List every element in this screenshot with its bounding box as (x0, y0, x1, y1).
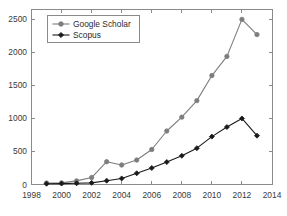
data-point-marker (255, 32, 259, 36)
chart-figure: 05001000150020002500 1998200020022004200… (0, 0, 287, 216)
x-tick-label: 1998 (22, 190, 41, 200)
x-tick-label: 2012 (233, 190, 252, 200)
y-tick-label: 2500 (8, 14, 27, 24)
x-tick-label: 2014 (263, 190, 282, 200)
data-point-marker (59, 22, 64, 27)
x-tick-label: 2000 (52, 190, 71, 200)
x-tick-label: 2004 (112, 190, 131, 200)
y-tick-label: 0 (22, 180, 27, 190)
legend-label: Google Scholar (73, 19, 131, 29)
chart-legend: Google ScholarScopus (48, 16, 140, 43)
data-point-marker (225, 54, 229, 58)
data-point-marker (165, 129, 169, 133)
data-point-marker (210, 73, 214, 77)
data-point-marker (104, 160, 108, 164)
data-point-marker (240, 17, 244, 21)
x-tick-label: 2008 (172, 190, 191, 200)
y-tick-label: 1000 (8, 113, 27, 123)
data-point-marker (135, 158, 139, 162)
data-point-marker (89, 175, 93, 179)
y-tick-label: 2000 (8, 47, 27, 57)
data-point-marker (195, 98, 199, 102)
data-point-marker (150, 147, 154, 151)
x-axis-tick-labels: 199820002002200420062008201020122014 (22, 190, 281, 200)
legend-label: Scopus (73, 30, 101, 40)
legend-marker-sample (59, 22, 64, 27)
y-tick-label: 500 (13, 146, 27, 156)
data-point-marker (119, 163, 123, 167)
x-tick-label: 2006 (142, 190, 161, 200)
data-point-marker (180, 115, 184, 119)
line-chart: 05001000150020002500 1998200020022004200… (0, 0, 287, 216)
chart-background (0, 0, 287, 216)
y-tick-label: 1500 (8, 80, 27, 90)
x-tick-label: 2010 (203, 190, 222, 200)
x-tick-label: 2002 (82, 190, 101, 200)
